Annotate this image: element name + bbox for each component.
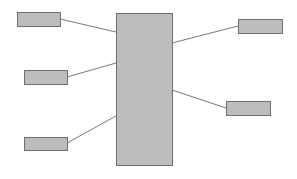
box-left-top — [18, 13, 61, 27]
connector-line-right-top — [172, 26, 238, 43]
box-left-bottom — [25, 138, 68, 151]
central-block — [117, 14, 173, 166]
box-right-top — [239, 20, 283, 34]
box-left-middle — [25, 71, 68, 85]
connector-line-left-top — [60, 19, 116, 32]
block-diagram — [0, 0, 297, 179]
box-right-bottom — [227, 102, 271, 116]
connector-line-left-middle — [67, 63, 116, 77]
connector-line-left-bottom — [67, 116, 116, 143]
connector-line-right-bottom — [172, 90, 226, 108]
